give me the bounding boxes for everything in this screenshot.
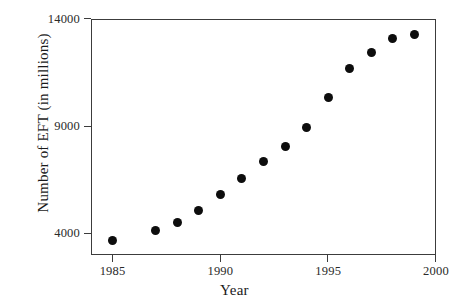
x-axis-tick — [220, 255, 221, 262]
y-axis-tick — [84, 18, 91, 19]
y-axis-tick — [84, 126, 91, 127]
x-axis-tick-label: 1990 — [190, 265, 250, 278]
data-point — [173, 218, 182, 227]
plot-area — [91, 19, 436, 255]
data-point — [324, 93, 333, 102]
x-axis-label: Year — [0, 282, 469, 299]
x-axis-tick-label: 2000 — [406, 265, 466, 278]
data-point — [281, 142, 290, 151]
scatter-chart-figure: 4000900014000 1985199019952000 Number of… — [0, 0, 469, 306]
x-axis-tick-label: 1985 — [83, 265, 143, 278]
x-axis-tick — [435, 255, 436, 262]
y-axis-label-container: Number of EFT (in millions) — [34, 3, 54, 243]
x-axis-tick-label: 1995 — [298, 265, 358, 278]
x-axis-tick — [327, 255, 328, 262]
y-axis-label: Number of EFT (in millions) — [35, 33, 51, 212]
y-axis-tick — [84, 233, 91, 234]
x-axis-tick — [112, 255, 113, 262]
